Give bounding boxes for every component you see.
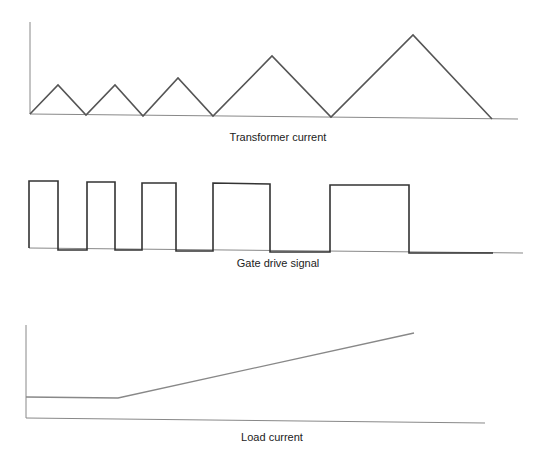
- load-x-axis: [26, 418, 485, 423]
- transformer-current-panel: [30, 22, 518, 119]
- gate-drive-caption: Gate drive signal: [237, 257, 320, 269]
- transformer-current-caption: Transformer current: [230, 131, 327, 143]
- transformer-x-axis: [30, 114, 518, 119]
- waveform-diagram: [0, 0, 557, 455]
- load-current-caption: Load current: [241, 431, 303, 443]
- load-current-panel: [26, 325, 485, 423]
- transformer-current-waveform: [30, 35, 492, 119]
- load-current-waveform: [26, 333, 414, 398]
- gate-drive-waveform: [29, 181, 493, 253]
- gate-drive-panel: [29, 181, 523, 253]
